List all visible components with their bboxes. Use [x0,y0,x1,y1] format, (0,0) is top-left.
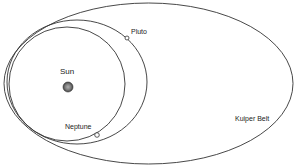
solar-system-diagram: Sun Pluto Neptune Kuiper Belt [0,0,300,167]
neptune-planet-icon [95,133,100,138]
pluto-planet-icon [125,36,129,40]
sun-label: Sun [60,68,74,76]
kuiper-belt-orbit [4,3,293,164]
orbit-diagram-svg [0,0,300,167]
neptune-label: Neptune [65,123,91,130]
kuiper-belt-label: Kuiper Belt [235,115,269,122]
pluto-label: Pluto [131,28,147,35]
sun-icon [63,82,73,92]
